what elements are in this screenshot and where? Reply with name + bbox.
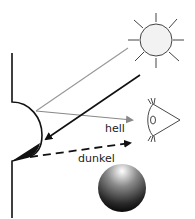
- label-dark: dunkel: [78, 152, 115, 165]
- eye-icon: [148, 98, 180, 142]
- sun-icon: [128, 13, 184, 68]
- surface-profile: [12, 53, 42, 218]
- incident-ray-light: [36, 48, 128, 111]
- incident-ray-dark: [46, 75, 140, 139]
- label-bright: hell: [105, 122, 125, 135]
- shaded-sphere: [98, 164, 146, 212]
- diagram-canvas: hell dunkel: [0, 0, 195, 219]
